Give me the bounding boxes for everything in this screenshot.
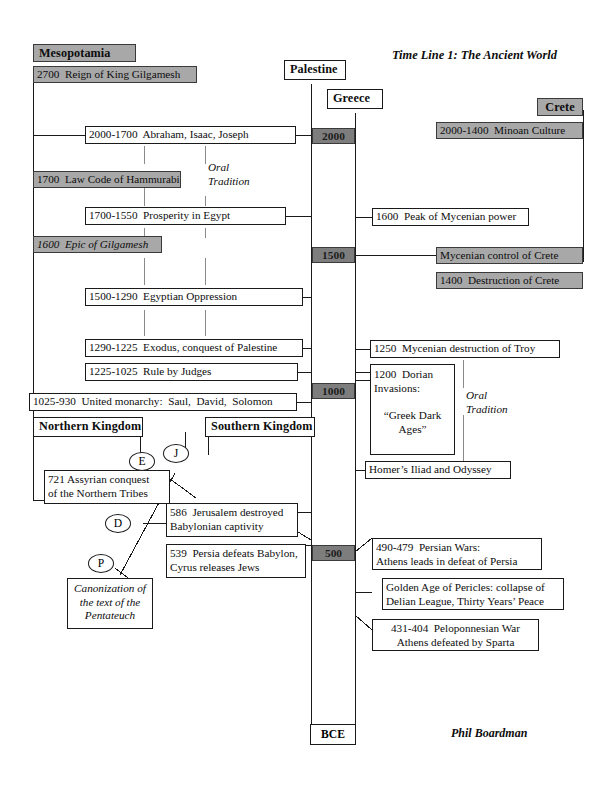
event-minoan-culture: 2000-1400 Minoan Culture	[436, 122, 583, 139]
event-dorian-invasions: 1200 Dorian Invasions: “Greek DarkAges”	[370, 364, 455, 455]
event-persia-defeats-babylon: 539 Persia defeats Babylon, Cyrus releas…	[166, 544, 306, 578]
dorian-line-3: “Greek Dark	[374, 409, 451, 423]
assyrian-line-1: 721 Assyrian conquest	[48, 473, 149, 485]
source-node-d: D	[105, 514, 131, 533]
pericles-line-2: Delian League, Thirty Years’ Peace	[386, 595, 544, 607]
oral-line-1: Oral	[208, 161, 229, 173]
persia-line-2: Cyrus releases Jews	[170, 561, 259, 573]
source-node-j: J	[163, 444, 189, 463]
era-marker-1500: 1500	[312, 247, 355, 263]
event-egyptian-oppression: 1500-1290 Egyptian Oppression	[85, 288, 303, 306]
event-assyrian-conquest: 721 Assyrian conquest of the Northern Tr…	[44, 470, 170, 504]
event-exodus: 1290-1225 Exodus, conquest of Palestine	[85, 339, 303, 357]
event-prosperity-egypt: 1700-1550 Prosperity in Egypt	[85, 207, 286, 225]
era-label-bce: BCE	[310, 724, 356, 745]
page-title: Time Line 1: The Ancient World	[392, 48, 557, 63]
jerusalem-line-1: 586 Jerusalem destroyed	[170, 506, 283, 518]
era-marker-2000: 2000	[312, 128, 355, 144]
column-header-northern-kingdom: Northern Kingdom	[33, 417, 143, 437]
event-homer: Homer’s Iliad and Odyssey	[365, 461, 511, 479]
event-judges: 1225-1025 Rule by Judges	[85, 363, 298, 381]
event-mycenian-peak: 1600 Peak of Mycenian power	[372, 208, 529, 226]
dorian-line-2: Invasions:	[374, 382, 420, 394]
persian-wars-line-2: Athens leads in defeat of Persia	[376, 555, 517, 567]
author-credit: Phil Boardman	[451, 726, 527, 741]
persian-wars-line-1: 490-479 Persian Wars:	[376, 541, 480, 553]
event-epic-gilgamesh: 1600 Epic of Gilgamesh	[33, 236, 162, 253]
annotation-oral-tradition-greece: Oral Tradition	[466, 388, 508, 416]
peloponnesian-line-2: Athens defeated by Sparta	[397, 636, 515, 648]
column-header-crete: Crete	[537, 98, 583, 116]
assyrian-line-2: of the Northern Tribes	[48, 487, 148, 499]
event-pentateuch-canonization: Canonization of the text of the Pentateu…	[67, 578, 153, 629]
column-header-palestine: Palestine	[284, 60, 346, 80]
persia-line-1: 539 Persia defeats Babylon,	[170, 547, 298, 559]
event-troy-destruction: 1250 Mycenian destruction of Troy	[370, 340, 560, 358]
event-persian-wars: 490-479 Persian Wars: Athens leads in de…	[372, 538, 542, 570]
dorian-line-4: Ages”	[374, 423, 451, 437]
peloponnesian-line-1: 431-404 Peloponnesian War	[391, 622, 520, 634]
era-marker-500: 500	[312, 545, 355, 561]
column-header-greece: Greece	[327, 89, 383, 109]
event-gilgamesh-reign: 2700 Reign of King Gilgamesh	[33, 66, 197, 83]
annotation-oral-tradition-palestine: Oral Tradition	[208, 160, 250, 188]
pentateuch-line-3: Pentateuch	[85, 609, 135, 621]
pentateuch-line-1: Canonization of	[74, 582, 146, 594]
column-header-mesopotamia: Mesopotamia	[33, 44, 136, 62]
pericles-line-1: Golden Age of Pericles: collapse of	[386, 581, 545, 593]
event-crete-destruction: 1400 Destruction of Crete	[436, 272, 583, 289]
event-pericles: Golden Age of Pericles: collapse of Deli…	[382, 578, 564, 610]
source-node-e: E	[129, 452, 155, 471]
era-marker-1000: 1000	[312, 383, 355, 399]
jerusalem-line-2: Babylonian captivity	[170, 520, 264, 532]
event-hammurabi: 1700 Law Code of Hammurabi	[33, 171, 181, 188]
oral-line-2: Tradition	[208, 175, 250, 187]
event-united-monarchy: 1025-930 United monarchy: Saul, David, S…	[29, 393, 297, 411]
column-header-southern-kingdom: Southern Kingdom	[205, 417, 315, 437]
event-peloponnesian-war: 431-404 Peloponnesian War Athens defeate…	[372, 619, 539, 651]
event-jerusalem-destroyed: 586 Jerusalem destroyed Babylonian capti…	[166, 503, 298, 537]
pentateuch-line-2: the text of the	[80, 596, 141, 608]
oral-g-line-1: Oral	[466, 389, 487, 401]
timeline-page: Time Line 1: The Ancient World Mesopotam…	[0, 0, 603, 790]
event-patriarchs: 2000-1700 Abraham, Isaac, Joseph	[85, 126, 296, 144]
oral-g-line-2: Tradition	[466, 403, 508, 415]
source-node-p: P	[88, 554, 114, 573]
dorian-line-1: 1200 Dorian	[374, 368, 433, 380]
event-mycenian-control: Mycenian control of Crete	[436, 247, 583, 264]
